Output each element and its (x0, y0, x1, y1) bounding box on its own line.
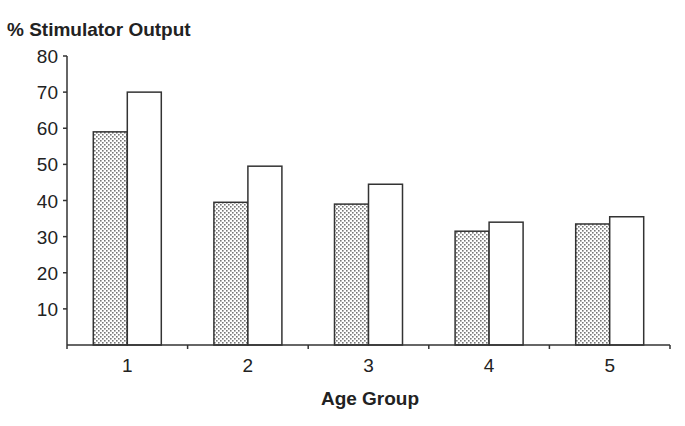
bar-white-group-3 (369, 184, 403, 345)
x-tick-label: 3 (363, 355, 374, 376)
bar-dotted-group-1 (93, 132, 127, 345)
x-axis-ticks: 12345 (67, 345, 670, 376)
x-tick-label: 4 (484, 355, 495, 376)
bar-white-group-4 (489, 222, 523, 345)
bar-dotted-group-3 (335, 204, 369, 345)
bar-dotted-group-2 (214, 202, 248, 345)
y-tick-label: 20 (37, 263, 58, 284)
y-tick-label: 40 (37, 191, 58, 212)
bar-dotted-group-4 (455, 231, 489, 345)
x-axis-title: Age Group (321, 388, 419, 409)
bar-white-group-5 (610, 217, 644, 345)
bar-chart: % Stimulator Output 1020304050607080 123… (0, 0, 685, 426)
y-tick-label: 30 (37, 227, 58, 248)
bar-white-group-1 (127, 92, 161, 345)
y-tick-label: 80 (37, 46, 58, 67)
x-tick-label: 1 (122, 355, 133, 376)
y-tick-label: 10 (37, 299, 58, 320)
bar-white-group-2 (248, 166, 282, 345)
y-axis-ticks: 1020304050607080 (37, 46, 67, 320)
bar-dotted-group-5 (576, 224, 610, 345)
x-tick-label: 5 (604, 355, 615, 376)
y-tick-label: 70 (37, 82, 58, 103)
y-tick-label: 60 (37, 118, 58, 139)
x-tick-label: 2 (243, 355, 254, 376)
bars (93, 92, 643, 345)
chart-title: % Stimulator Output (7, 19, 191, 40)
y-tick-label: 50 (37, 154, 58, 175)
